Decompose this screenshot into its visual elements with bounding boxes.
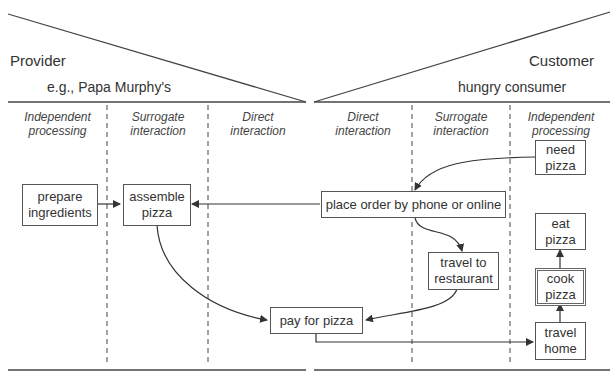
customer-col-surrogate: Surrogate interaction: [414, 110, 508, 138]
step-label: eat: [545, 216, 575, 232]
arrow-assemble-to-pay: [157, 225, 267, 320]
step-label: home: [544, 341, 577, 357]
customer-col-direct: Direct interaction: [316, 110, 410, 138]
step-label: cook: [545, 271, 575, 287]
step-label: restaurant: [434, 271, 493, 287]
step-need-pizza: needpizza: [535, 140, 586, 175]
step-label: need: [545, 142, 575, 158]
step-label: pizza: [545, 158, 575, 174]
provider-title: Provider: [10, 52, 66, 69]
step-prepare-ingredients: prepareingredients: [22, 184, 98, 226]
arrow-need-to-order: [415, 157, 536, 190]
step-place-order: place order by phone or online: [321, 191, 506, 218]
step-label: place order by phone or online: [326, 197, 502, 213]
col-label: Direct: [316, 110, 410, 124]
step-travel-home: travelhome: [535, 322, 586, 360]
provider-col-surrogate: Surrogate interaction: [110, 110, 206, 138]
col-label: interaction: [110, 124, 206, 138]
col-label: Direct: [210, 110, 306, 124]
customer-example: hungry consumer: [458, 79, 566, 95]
customer-col-independent: Independent processing: [512, 110, 610, 138]
step-travel-to-restaurant: travel torestaurant: [428, 252, 499, 290]
step-label: travel to: [434, 255, 493, 271]
provider-col-independent: Independent processing: [10, 110, 105, 138]
step-label: pay for pizza: [280, 313, 354, 329]
col-label: Surrogate: [110, 110, 206, 124]
col-label: processing: [512, 124, 610, 138]
customer-title: Customer: [529, 52, 594, 69]
provider-example: e.g., Papa Murphy's: [47, 79, 171, 95]
step-pay-for-pizza: pay for pizza: [270, 307, 363, 334]
col-label: processing: [10, 124, 105, 138]
col-label: Independent: [10, 110, 105, 124]
col-label: interaction: [210, 124, 306, 138]
step-label: travel: [544, 325, 577, 341]
step-eat-pizza: eatpizza: [535, 213, 586, 250]
step-label: pizza: [129, 205, 185, 221]
col-label: Surrogate: [414, 110, 508, 124]
col-label: interaction: [316, 124, 410, 138]
step-label: assemble: [129, 189, 185, 205]
step-label: pizza: [545, 232, 575, 248]
step-label: prepare: [28, 189, 92, 205]
arrow-order-to-travel: [415, 218, 462, 251]
step-assemble-pizza: assemblepizza: [123, 184, 191, 226]
provider-col-direct: Direct interaction: [210, 110, 306, 138]
col-label: Independent: [512, 110, 610, 124]
step-label: ingredients: [28, 205, 92, 221]
step-label: pizza: [545, 287, 575, 303]
arrow-pay-to-travel-home: [316, 334, 533, 342]
step-cook-pizza: cookpizza: [535, 268, 586, 306]
col-label: interaction: [414, 124, 508, 138]
